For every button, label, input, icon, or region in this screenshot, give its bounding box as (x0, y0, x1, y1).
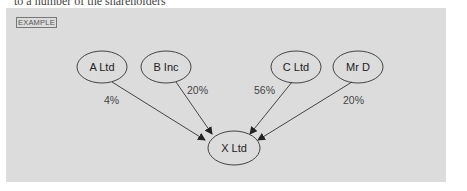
node-label-a: A Ltd (89, 61, 114, 73)
node-label-c: C Ltd (283, 61, 309, 73)
edge-label-a: 4% (104, 94, 119, 106)
node-label-b: B Inc (153, 61, 179, 73)
ownership-diagram: 4% 20% 56% 20% A Ltd B Inc C Ltd Mr D X … (0, 0, 467, 191)
node-label-d: Mr D (346, 61, 370, 73)
node-a-ltd: A Ltd (77, 51, 127, 83)
edge-label-b: 20% (187, 84, 208, 96)
node-x-ltd: X Ltd (208, 131, 260, 165)
node-mr-d: Mr D (333, 51, 383, 83)
node-c-ltd: C Ltd (271, 51, 321, 83)
edge-label-d: 20% (343, 94, 364, 106)
edge-label-c: 56% (254, 84, 275, 96)
node-label-x: X Ltd (221, 142, 247, 154)
node-b-inc: B Inc (141, 51, 191, 83)
